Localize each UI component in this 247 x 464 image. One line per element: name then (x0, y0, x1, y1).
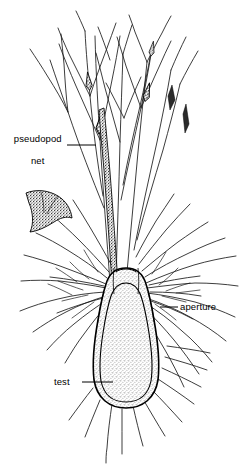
label-pseudopod-net-line2: net (31, 155, 45, 166)
label-test: test (54, 376, 70, 387)
label-pseudopod-net: pseudopod net (4, 122, 66, 166)
foraminiferan-illustration (0, 0, 247, 464)
label-pseudopod-net-line1: pseudopod (14, 133, 62, 144)
label-aperture: aperture (180, 301, 216, 312)
